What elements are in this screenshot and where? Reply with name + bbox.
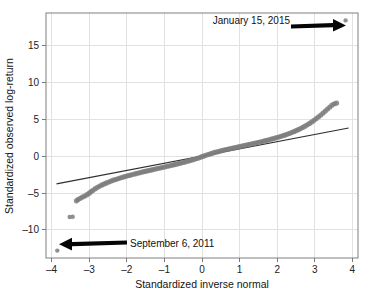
x-tick-label: 0 [199, 264, 205, 275]
x-tick-label: –4 [46, 264, 58, 275]
x-tick-label: 1 [237, 264, 243, 275]
x-tick-label: –1 [159, 264, 171, 275]
y-tick-label: –5 [28, 188, 40, 199]
y-tick-label: 5 [33, 114, 39, 125]
x-tick-label: –2 [121, 264, 133, 275]
y-tick-label: –10 [22, 224, 39, 235]
qq-plot-figure: –4–3–2–101234 151050–5–10 Standardized i… [0, 0, 375, 300]
x-tick-label: –3 [84, 264, 96, 275]
y-tick-label: 15 [28, 40, 40, 51]
x-tick-label: 3 [312, 264, 318, 275]
x-axis-title: Standardized inverse normal [135, 278, 269, 290]
x-tick-label: 4 [350, 264, 356, 275]
y-tick-label: 0 [33, 151, 39, 162]
x-tick-label: 2 [274, 264, 280, 275]
y-tick-label: 10 [28, 77, 40, 88]
y-axis-title: Standardized observed log-return [3, 58, 15, 214]
annotation-january-2015-label: January 15, 2015 [213, 15, 291, 26]
annotation-september-2011-label: September 6, 2011 [130, 238, 215, 249]
chart-canvas: –4–3–2–101234 151050–5–10 Standardized i… [0, 0, 375, 300]
